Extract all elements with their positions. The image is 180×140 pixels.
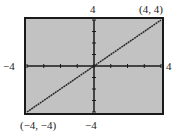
xmin-label: −4 <box>3 61 15 72</box>
xmax-label: 4 <box>166 61 172 72</box>
ymin-label: −4 <box>85 120 97 131</box>
point-label-bottom-left: (−4, −4) <box>20 120 56 131</box>
point-label-top-right: (4, 4) <box>139 4 163 15</box>
ymax-label: 4 <box>90 4 96 15</box>
